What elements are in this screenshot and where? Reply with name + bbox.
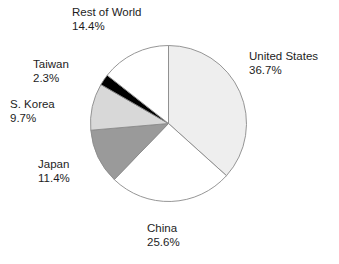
- slice-label-japan-name: Japan: [38, 158, 70, 172]
- slice-label-taiwan: Taiwan 2.3%: [33, 58, 69, 85]
- slice-label-taiwan-name: Taiwan: [33, 58, 69, 72]
- slice-label-japan: Japan 11.4%: [38, 158, 70, 185]
- pie-chart: Rest of World 14.4% United States 36.7% …: [0, 0, 339, 264]
- slice-label-s-korea-name: S. Korea: [10, 98, 55, 112]
- pie-slices-group: [91, 45, 247, 201]
- slice-label-china-value: 25.6%: [147, 236, 180, 250]
- slice-label-rest-of-world: Rest of World 14.4%: [72, 6, 141, 33]
- slice-label-rest-of-world-value: 14.4%: [72, 20, 141, 34]
- slice-label-s-korea-value: 9.7%: [10, 112, 55, 126]
- slice-label-united-states: United States 36.7%: [249, 50, 318, 77]
- slice-label-s-korea: S. Korea 9.7%: [10, 98, 55, 125]
- slice-label-china-name: China: [147, 222, 180, 236]
- slice-label-china: China 25.6%: [147, 222, 180, 249]
- slice-label-taiwan-value: 2.3%: [33, 72, 69, 86]
- slice-label-japan-value: 11.4%: [38, 172, 70, 186]
- slice-label-rest-of-world-name: Rest of World: [72, 6, 141, 20]
- slice-label-united-states-name: United States: [249, 50, 318, 64]
- slice-label-united-states-value: 36.7%: [249, 64, 318, 78]
